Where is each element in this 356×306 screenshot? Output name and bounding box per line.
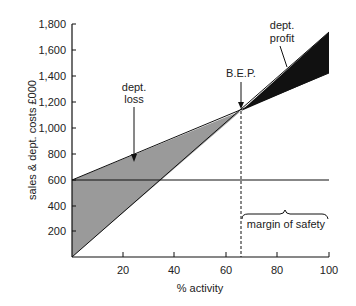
break-even-chart: 200 400 600 800 1,000 1,200 1,400 1,600 … [0, 0, 356, 306]
loss-label-1: dept. [122, 81, 146, 93]
bep-label: B.E.P. [226, 67, 256, 79]
svg-text:20: 20 [117, 264, 129, 276]
margin-label: margin of safety [247, 218, 326, 230]
profit-label-2: profit [270, 32, 294, 44]
svg-text:800: 800 [48, 148, 66, 160]
svg-text:1,400: 1,400 [38, 70, 66, 82]
svg-text:80: 80 [271, 264, 283, 276]
y-tick-labels: 200 400 600 800 1,000 1,200 1,400 1,600 … [38, 18, 66, 237]
profit-arrow [280, 46, 287, 67]
svg-text:600: 600 [48, 174, 66, 186]
svg-text:1,800: 1,800 [38, 18, 66, 30]
svg-text:1,000: 1,000 [38, 122, 66, 134]
svg-text:200: 200 [48, 225, 66, 237]
svg-text:40: 40 [168, 264, 180, 276]
svg-text:1,600: 1,600 [38, 44, 66, 56]
x-tick-labels: 20 40 60 80 100 [117, 264, 338, 276]
svg-text:1,200: 1,200 [38, 96, 66, 108]
y-axis-title: sales & dept. costs £000 [26, 80, 38, 200]
svg-text:100: 100 [320, 264, 338, 276]
svg-text:60: 60 [220, 264, 232, 276]
cost-line [72, 73, 329, 180]
x-axis-title: % activity [177, 282, 224, 294]
svg-text:400: 400 [48, 200, 66, 212]
profit-label-1: dept. [270, 19, 294, 31]
x-ticks [123, 252, 329, 257]
loss-label-2: loss [124, 93, 144, 105]
